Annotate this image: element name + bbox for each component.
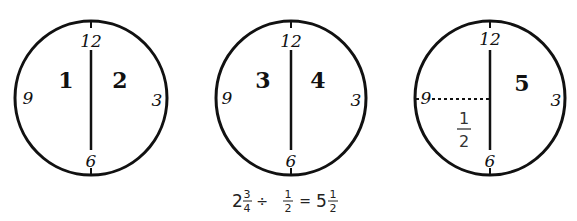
frac3-den: 2 (330, 202, 337, 215)
label-9: 9 (222, 88, 233, 108)
label-3: 3 (152, 90, 163, 110)
half-label-left: 1 (58, 67, 73, 93)
label-12: 12 (80, 31, 102, 51)
frac2-num: 1 (285, 188, 292, 201)
label-6: 6 (485, 151, 496, 171)
mixed-whole-1: 2 (232, 191, 243, 211)
label-3: 3 (351, 90, 362, 110)
clock-2: 12 6 9 3 3 4 (216, 21, 366, 176)
divide-sign: ÷ (256, 193, 268, 209)
frac1-den: 4 (244, 202, 251, 215)
half-label-right: 5 (514, 70, 529, 96)
mixed-whole-3: 5 (316, 191, 327, 211)
equals-sign: = (299, 193, 311, 209)
frac3-num: 1 (330, 188, 337, 201)
half-label-right: 4 (310, 67, 325, 93)
label-6: 6 (286, 151, 297, 171)
label-12: 12 (479, 29, 501, 49)
label-9: 9 (23, 88, 34, 108)
equation: 2 3 4 ÷ 1 2 = 5 1 2 (232, 188, 338, 215)
label-12: 12 (280, 31, 302, 51)
clock-1: 12 6 9 3 1 2 (15, 21, 167, 176)
clock-3: 12 6 9 3 5 1 2 (415, 21, 565, 176)
frac1-num: 3 (244, 188, 251, 201)
clock-division-diagram: 12 6 9 3 1 2 12 6 9 3 3 4 12 6 9 3 5 1 2 (0, 0, 577, 221)
label-9: 9 (421, 88, 432, 108)
fraction-denominator: 2 (459, 132, 469, 151)
label-6: 6 (86, 151, 97, 171)
fraction-numerator: 1 (459, 109, 469, 128)
quarter-fraction: 1 2 (457, 109, 471, 151)
frac2-den: 2 (285, 202, 292, 215)
half-label-left: 3 (255, 67, 270, 93)
label-3: 3 (551, 90, 562, 110)
half-label-right: 2 (112, 67, 127, 93)
